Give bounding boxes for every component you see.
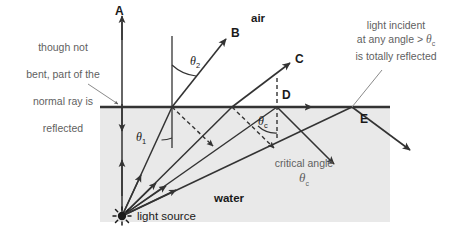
- theta-subscript: 1: [142, 137, 146, 146]
- theta-subscript: c: [264, 121, 268, 130]
- light-source-icon: [113, 207, 131, 225]
- annotation-line: critical angle: [252, 157, 356, 171]
- annotation-line: though not: [6, 41, 120, 55]
- point-label-a: A: [115, 4, 124, 18]
- annotation-total-reflection-note: light incident at any angle > θc is tota…: [330, 19, 462, 64]
- annotation-line: light incident: [330, 19, 462, 33]
- angle-label-theta2: θ2: [190, 54, 200, 70]
- annotation-normal-ray-note: though not bent, part of the normal ray …: [6, 27, 120, 149]
- refracted-ray-b: [172, 39, 226, 107]
- annotation-line: normal ray is: [6, 95, 120, 109]
- point-label-b: B: [231, 26, 240, 40]
- annotation-critical-angle-caption: critical angle θc: [252, 157, 356, 190]
- label-water: water: [214, 192, 244, 204]
- theta-subscript: 2: [196, 61, 200, 70]
- diagram-canvas: though not bent, part of the normal ray …: [0, 0, 464, 239]
- label-light-source: light source: [137, 210, 196, 222]
- angle-label-thetac-at-d: θc: [258, 114, 268, 130]
- theta-symbol: θc: [426, 33, 435, 45]
- annotation-line: reflected: [6, 122, 120, 136]
- annotation-line: bent, part of the: [6, 68, 120, 82]
- annotation-line: at any angle > θc: [330, 33, 462, 51]
- angle-label-theta1: θ1: [136, 130, 146, 146]
- theta-symbol: θc: [252, 171, 356, 190]
- point-label-c: C: [295, 52, 304, 66]
- label-air: air: [251, 12, 265, 24]
- theta-subscript: c: [305, 179, 309, 186]
- annotation-line-prefix: at any angle >: [357, 33, 426, 45]
- annotation-line: is totally reflected: [330, 50, 462, 64]
- theta-subscript: c: [432, 40, 436, 47]
- total-reflection-note-leader: [352, 70, 382, 107]
- point-label-d: D: [282, 88, 291, 102]
- point-label-e: E: [360, 112, 368, 126]
